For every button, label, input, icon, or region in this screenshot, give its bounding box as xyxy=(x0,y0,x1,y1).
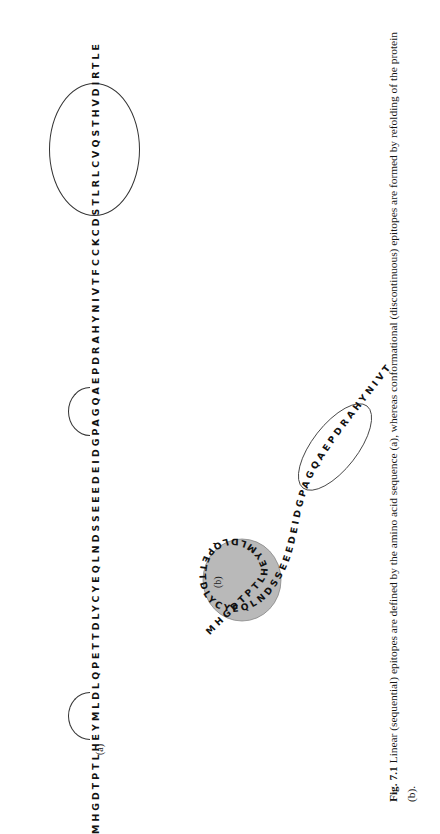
panel-a-label: (a) xyxy=(94,744,105,755)
figure-caption-container: Fig. 7.1 Linear (sequential) epitopes ar… xyxy=(378,0,440,834)
sequence-rotation-container: MHGDTPTLHEYMLDLQPETTDLYCYEQLNDSSEEEDEIDG… xyxy=(0,0,170,834)
amino-acid-sequence: MHGDTPTLHEYMLDLQPETTDLYCYEQLNDSSEEEDEIDG… xyxy=(86,0,106,834)
figure-caption-text: Linear (sequential) epitopes are defined… xyxy=(387,32,417,802)
folded-protein-svg: MHGDTPTLHEYMLDLQPETTDLYCYEQLNDSSEEEDEIDG… xyxy=(170,250,390,680)
folded-sequence-text: MHGDTPTLHEYMLDLQPETTDLYCYEQLNDSSEEEDEIDG… xyxy=(165,241,394,637)
figure-number: Fig. 7.1 xyxy=(387,766,399,802)
panel-b-folded-protein: MHGDTPTLHEYMLDLQPETTDLYCYEQLNDSSEEEDEIDG… xyxy=(170,250,390,680)
figure-caption: Fig. 7.1 Linear (sequential) epitopes ar… xyxy=(385,32,433,802)
panel-b-label: (b) xyxy=(212,576,223,588)
figure-page: MHGDTPTLHEYMLDLQPETTDLYCYEQLNDSSEEEDEIDG… xyxy=(0,0,440,834)
panel-a-linear-sequence: MHGDTPTLHEYMLDLQPETTDLYCYEQLNDSSEEEDEIDG… xyxy=(0,0,170,834)
